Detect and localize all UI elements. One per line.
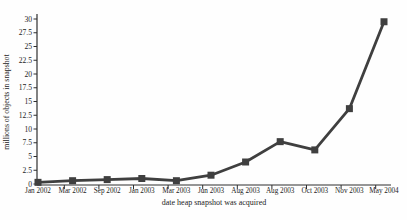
x-tick-label: Jan 2003 [129, 187, 155, 195]
x-axis-title: date heap snapshot was acquired [162, 198, 266, 207]
heap-objects-line-chart: 02.557.51012.51517.52022.52527.530Jan 20… [0, 0, 407, 220]
data-series-layer [35, 18, 388, 186]
y-tick-label: 10 [24, 125, 32, 134]
chart-canvas: 02.557.51012.51517.52022.52527.530Jan 20… [0, 0, 407, 220]
data-point [277, 138, 284, 145]
y-tick-label: 22.5 [19, 56, 32, 65]
x-tick-label: Jun 2003 [198, 187, 225, 195]
x-tick-label: May 2004 [369, 187, 399, 195]
data-point [104, 176, 111, 183]
x-tick-label: Aug 2003 [266, 187, 295, 195]
y-tick-label: 27.5 [19, 28, 32, 37]
y-tick-label: 12.5 [19, 111, 32, 120]
y-tick-label: 25 [24, 42, 32, 51]
data-point [208, 172, 215, 179]
x-tick-label: Oct 2003 [302, 187, 329, 195]
axes-layer [37, 14, 391, 185]
y-axis-title: millions of objects in snapshot [2, 54, 11, 150]
y-tick-label: 7.5 [23, 138, 33, 147]
x-tick-label: Mar 2002 [59, 187, 88, 195]
x-tick-label: Mar 2003 [162, 187, 191, 195]
ticks-layer: 02.557.51012.51517.52022.52527.530Jan 20… [19, 15, 399, 195]
y-tick-label: 20 [24, 70, 32, 79]
data-point [381, 18, 388, 25]
data-point [138, 175, 145, 182]
data-point [311, 146, 318, 153]
y-tick-label: 15 [24, 97, 32, 106]
data-point [35, 179, 42, 186]
data-point [242, 159, 249, 166]
x-tick-label: Aug 2003 [231, 187, 260, 195]
x-tick-label: Nov 2003 [335, 187, 364, 195]
y-tick-label: 5 [28, 152, 32, 161]
x-tick-label: Jan 2002 [25, 187, 51, 195]
y-tick-label: 2.5 [23, 166, 33, 175]
data-point [69, 177, 76, 184]
data-series-line [38, 22, 384, 183]
data-point [346, 105, 353, 112]
y-tick-label: 17.5 [19, 83, 32, 92]
x-tick-label: Sep 2002 [94, 187, 121, 195]
data-point [173, 177, 180, 184]
y-tick-label: 30 [24, 15, 32, 24]
